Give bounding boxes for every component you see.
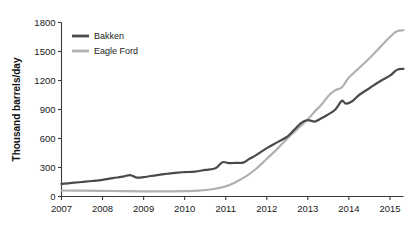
y-axis-tick-label: 900 [40,104,56,115]
cropped-header-text [8,0,408,9]
y-axis-title: Thousand barrels/day [11,57,22,161]
x-axis-tick-label: 2007 [51,203,72,214]
chart-figure: 0300600900120015001800200720082009201020… [0,0,414,232]
y-axis-tick-label: 1800 [34,17,55,28]
legend-label-eagle-ford: Eagle Ford [94,46,138,56]
legend-label-bakken: Bakken [94,31,124,41]
y-axis-tick-label: 1200 [34,75,55,86]
x-axis-tick-label: 2012 [256,203,277,214]
x-axis-tick-label: 2011 [216,203,236,214]
x-axis-tick-label: 2013 [297,203,318,214]
y-axis-tick-label: 600 [40,133,56,144]
x-axis-tick-label: 2010 [174,203,195,214]
x-axis-tick-label: 2015 [379,203,400,214]
y-axis-tick-label: 300 [40,162,56,173]
x-axis-tick-label: 2008 [92,203,113,214]
y-axis-tick-label: 1500 [34,46,55,57]
series-line-bakken [62,69,404,184]
y-axis-tick-label: 0 [50,191,55,202]
line-chart-plot: 0300600900120015001800200720082009201020… [0,0,414,232]
x-axis-tick-label: 2009 [133,203,154,214]
x-axis-tick-label: 2014 [338,203,359,214]
